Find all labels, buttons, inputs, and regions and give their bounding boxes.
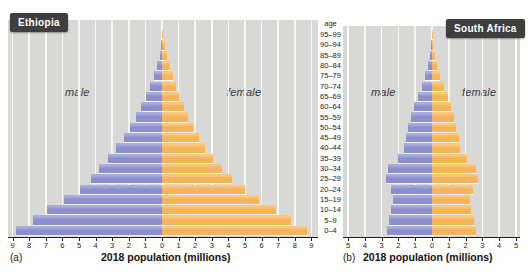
bar-female-80-84 xyxy=(432,61,437,71)
tick-label: 6 xyxy=(54,241,70,250)
south-africa-pyramid-panel: male female 54321012345 xyxy=(343,26,520,238)
bar-male-50-54 xyxy=(130,123,162,133)
bar-male-40-44 xyxy=(404,143,432,153)
bar-female-60-64 xyxy=(432,102,451,112)
south-africa-x-axis-title: 2018 population (millions) xyxy=(363,251,493,263)
gridline xyxy=(12,20,14,237)
bar-female-10-14 xyxy=(432,205,471,215)
bar-female-70-74 xyxy=(432,82,444,92)
bar-male-5-9 xyxy=(389,215,432,225)
tick-label: 7 xyxy=(270,241,286,250)
age-label: 85–89 xyxy=(314,51,347,61)
age-label: 10–14 xyxy=(314,205,347,215)
ethiopia-title: Ethiopia xyxy=(18,17,60,28)
bar-male-55-59 xyxy=(411,112,432,122)
tick-label: 4 xyxy=(357,241,373,250)
bar-male-25-29 xyxy=(386,174,432,184)
bar-male-10-14 xyxy=(47,205,162,215)
bar-female-35-39 xyxy=(162,154,213,164)
bar-female-60-64 xyxy=(162,102,184,112)
bar-male-75-79 xyxy=(425,71,432,81)
bar-male-65-69 xyxy=(418,92,432,102)
bar-male-15-19 xyxy=(393,195,432,205)
bar-male-45-49 xyxy=(124,133,162,143)
bar-female-5-9 xyxy=(432,215,474,225)
age-label: 40–44 xyxy=(314,143,347,153)
age-label: 90–94 xyxy=(314,40,347,50)
tick-label: 8 xyxy=(287,241,303,250)
tick-label: 9 xyxy=(303,241,319,250)
age-label: 75–79 xyxy=(314,71,347,81)
gridline xyxy=(294,20,296,237)
tick-label: 7 xyxy=(38,241,54,250)
bar-male-45-49 xyxy=(406,133,432,143)
bar-female-80-84 xyxy=(162,61,170,71)
gridline xyxy=(482,26,484,237)
bar-female-15-19 xyxy=(432,195,470,205)
gridline xyxy=(28,20,30,237)
bar-female-10-14 xyxy=(162,205,276,215)
age-label: 95–99 xyxy=(314,30,347,40)
age-label: 25–29 xyxy=(314,174,347,184)
bar-male-40-44 xyxy=(116,143,162,153)
tick-label: 5 xyxy=(237,241,253,250)
gridline xyxy=(364,26,366,237)
age-label: 60–64 xyxy=(314,102,347,112)
bar-male-75-79 xyxy=(154,71,162,81)
bar-male-20-24 xyxy=(80,185,162,195)
bar-male-70-74 xyxy=(150,82,162,92)
bar-male-0-4 xyxy=(16,226,162,236)
tick-label: 4 xyxy=(220,241,236,250)
tick-label: 5 xyxy=(340,241,356,250)
tick-label: 2 xyxy=(121,241,137,250)
tick-label: 1 xyxy=(137,241,153,250)
south-africa-plot-area: male female xyxy=(343,26,520,238)
bar-female-50-54 xyxy=(432,123,456,133)
tick-label: 3 xyxy=(204,241,220,250)
tick-label: 1 xyxy=(407,241,423,250)
bar-female-95-99 xyxy=(432,30,433,40)
tick-label: 5 xyxy=(71,241,87,250)
age-label: 30–34 xyxy=(314,164,347,174)
gridline xyxy=(311,20,313,237)
bar-female-0-4 xyxy=(432,226,476,236)
gridline xyxy=(277,20,279,237)
population-pyramids-figure: Ethiopia South Africa male female 987654… xyxy=(0,0,532,280)
bar-female-45-49 xyxy=(162,133,199,143)
bar-female-50-54 xyxy=(162,123,193,133)
bar-male-65-69 xyxy=(146,92,162,102)
gridline xyxy=(347,26,349,237)
age-label: 65–69 xyxy=(314,92,347,102)
bar-female-40-44 xyxy=(162,143,205,153)
age-label: 50–54 xyxy=(314,123,347,133)
bar-female-30-34 xyxy=(162,164,222,174)
bar-male-25-29 xyxy=(91,174,162,184)
age-label: 5–9 xyxy=(314,216,347,226)
panel-b-tag: (b) xyxy=(343,252,355,263)
bar-female-90-94 xyxy=(162,40,165,50)
tick-label: 2 xyxy=(458,241,474,250)
bar-female-55-59 xyxy=(432,112,454,122)
tick-label: 6 xyxy=(254,241,270,250)
age-label: 0–4 xyxy=(314,226,347,236)
bar-female-85-89 xyxy=(162,51,167,61)
bar-male-60-64 xyxy=(414,102,432,112)
bar-male-55-59 xyxy=(136,112,162,122)
gridline xyxy=(515,26,517,237)
bar-female-0-4 xyxy=(162,226,307,236)
tick-label: 0 xyxy=(154,241,170,250)
tick-label: 1 xyxy=(171,241,187,250)
age-label: 70–74 xyxy=(314,82,347,92)
bar-female-55-59 xyxy=(162,112,188,122)
tick-label: 3 xyxy=(104,241,120,250)
tick-label: 9 xyxy=(5,241,21,250)
bar-male-35-39 xyxy=(108,154,162,164)
bar-female-35-39 xyxy=(432,154,467,164)
bar-female-65-69 xyxy=(432,92,448,102)
bar-female-75-79 xyxy=(162,71,173,81)
bar-female-65-69 xyxy=(162,92,179,102)
age-axis-labels: age95–9990–9485–8980–8475–7970–7465–6960… xyxy=(314,20,347,238)
tick-label: 5 xyxy=(508,241,524,250)
panel-a-tag: (a) xyxy=(10,252,22,263)
bar-male-10-14 xyxy=(391,205,432,215)
